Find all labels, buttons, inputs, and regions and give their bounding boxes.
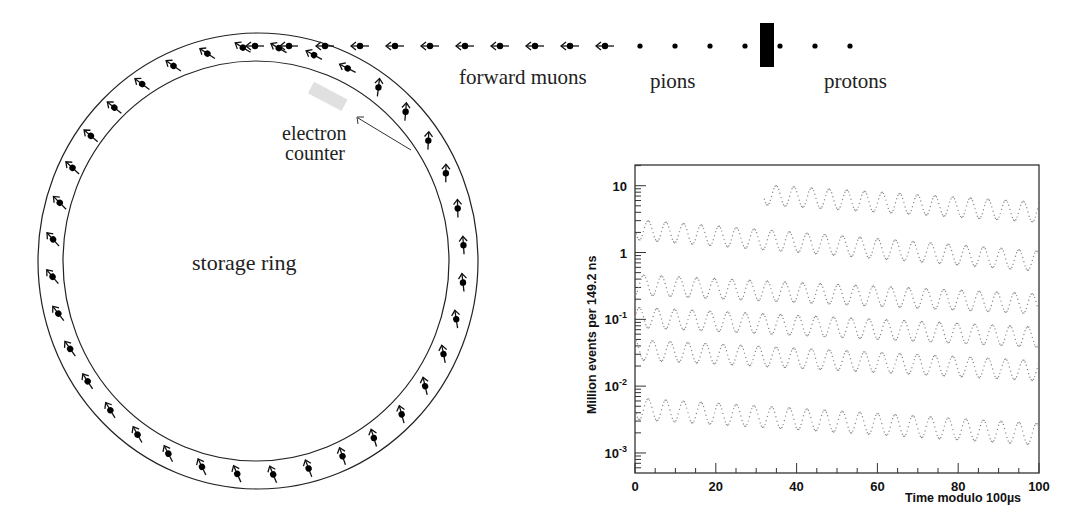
data-point — [976, 263, 977, 264]
data-point — [940, 294, 941, 295]
data-point — [815, 294, 816, 295]
data-point — [863, 420, 864, 421]
data-point — [955, 201, 956, 202]
data-point — [770, 230, 771, 231]
data-point — [692, 243, 693, 244]
data-point — [649, 221, 650, 222]
data-point — [696, 277, 697, 278]
data-point — [1028, 443, 1029, 444]
data-point — [680, 227, 681, 228]
data-point — [897, 303, 898, 304]
data-point — [760, 422, 761, 423]
data-point — [911, 241, 912, 242]
data-point — [782, 201, 783, 202]
data-point — [790, 354, 791, 355]
data-point — [910, 244, 911, 245]
data-point — [710, 285, 711, 286]
data-point — [980, 425, 981, 426]
data-point — [910, 337, 911, 338]
data-point — [660, 276, 661, 277]
data-point — [864, 326, 865, 327]
data-point — [678, 413, 679, 414]
data-point — [673, 309, 674, 310]
data-point — [666, 222, 667, 223]
data-point — [1024, 330, 1025, 331]
data-point — [908, 329, 909, 330]
data-point — [967, 201, 968, 202]
data-point — [944, 334, 945, 335]
data-point — [980, 252, 981, 253]
data-point — [637, 343, 638, 344]
data-point — [746, 361, 747, 362]
data-point — [773, 332, 774, 333]
data-point — [658, 357, 659, 358]
data-point — [847, 303, 848, 304]
data-point — [974, 323, 975, 324]
data-point — [909, 333, 910, 334]
data-point — [916, 248, 917, 249]
y-tick-label: 10-3 — [605, 444, 627, 461]
data-point — [680, 405, 681, 406]
data-point — [756, 409, 757, 410]
data-point — [775, 346, 776, 347]
data-point — [950, 198, 951, 199]
data-point — [973, 264, 974, 265]
data-point — [876, 338, 877, 339]
data-point — [859, 338, 860, 339]
data-point — [824, 199, 825, 200]
data-point — [638, 239, 639, 240]
data-point — [825, 410, 826, 411]
data-point — [728, 423, 729, 424]
data-point — [1035, 301, 1036, 302]
data-point — [1034, 297, 1035, 298]
data-point — [870, 205, 871, 206]
data-point — [773, 188, 774, 189]
data-point — [856, 331, 857, 332]
data-point — [663, 326, 664, 327]
data-point — [679, 321, 680, 322]
data-point — [988, 260, 989, 261]
data-point — [794, 186, 795, 187]
data-point — [709, 245, 710, 246]
data-point — [651, 320, 652, 321]
data-point — [982, 344, 983, 345]
data-point — [717, 356, 718, 357]
data-point — [702, 292, 703, 293]
data-point — [915, 419, 916, 420]
data-point — [755, 332, 756, 333]
data-point — [727, 425, 728, 426]
data-point — [638, 307, 639, 308]
data-point — [772, 192, 773, 193]
data-point — [929, 367, 930, 368]
data-point — [963, 248, 964, 249]
data-point — [986, 339, 987, 340]
data-point — [908, 373, 909, 374]
data-point — [951, 250, 952, 251]
data-point — [655, 309, 656, 310]
data-point — [697, 362, 698, 363]
data-point — [994, 376, 995, 377]
data-point — [799, 364, 800, 365]
data-point — [643, 316, 644, 317]
data-point — [938, 361, 939, 362]
x-tick-label: 0 — [631, 479, 638, 494]
data-point — [728, 245, 729, 246]
data-point — [838, 243, 839, 244]
data-point — [853, 286, 854, 287]
data-point — [676, 312, 677, 313]
data-point — [1022, 257, 1023, 258]
data-point — [776, 300, 777, 301]
data-point — [832, 297, 833, 298]
data-point — [664, 222, 665, 223]
data-point — [745, 426, 746, 427]
data-point — [721, 297, 722, 298]
muon-spin-icon — [164, 57, 183, 74]
data-point — [1004, 339, 1005, 340]
data-point — [649, 345, 650, 346]
data-point — [791, 332, 792, 333]
data-point — [828, 243, 829, 244]
data-point — [979, 429, 980, 430]
data-point — [911, 293, 912, 294]
data-point — [750, 365, 751, 366]
data-point — [1020, 307, 1021, 308]
